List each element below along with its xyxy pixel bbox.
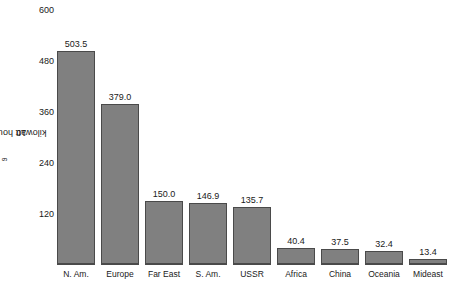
x-axis-tick-label: Africa <box>277 268 315 280</box>
bar <box>409 259 447 265</box>
x-axis-tick-label: S. Am. <box>189 268 227 280</box>
bar-value-label: 146.9 <box>197 191 220 201</box>
x-axis-tick-label: Oceania <box>365 268 403 280</box>
bar-slot: 37.5 <box>321 0 359 265</box>
bar-chart: 109 kilowatt hours 600480360240120 503.5… <box>0 0 456 290</box>
bar-value-label: 379.0 <box>109 92 132 102</box>
bar <box>101 104 139 265</box>
bar-slot: 146.9 <box>189 0 227 265</box>
x-axis-tick-label: China <box>321 268 359 280</box>
bar-value-label: 150.0 <box>153 189 176 199</box>
plot-area: 503.5379.0150.0146.9135.740.437.532.413.… <box>57 0 456 266</box>
bar-slot: 379.0 <box>101 0 139 265</box>
y-axis-tick-labels: 600480360240120 <box>18 0 54 290</box>
y-axis-title-exponent: 9 <box>1 157 8 161</box>
y-axis-title: 109 kilowatt hours <box>0 0 16 265</box>
bar <box>321 249 359 265</box>
bar <box>145 201 183 265</box>
y-axis-tick-label: 600 <box>18 5 54 15</box>
x-axis-tick-label: USSR <box>233 268 271 280</box>
x-axis-tick-labels: N. Am.EuropeFar EastS. Am.USSRAfricaChin… <box>57 268 456 280</box>
bar <box>57 51 95 265</box>
y-axis-tick-label: 480 <box>18 56 54 66</box>
bar-slot: 40.4 <box>277 0 315 265</box>
bar <box>189 203 227 265</box>
x-axis-tick-label: N. Am. <box>57 268 95 280</box>
bar-slot: 32.4 <box>365 0 403 265</box>
bar-value-label: 40.4 <box>287 236 305 246</box>
bar-value-label: 503.5 <box>65 39 88 49</box>
bar-value-label: 37.5 <box>331 237 349 247</box>
bar-value-label: 32.4 <box>375 239 393 249</box>
bar <box>365 251 403 265</box>
bar-slot: 13.4 <box>409 0 447 265</box>
y-axis-tick-label: 120 <box>18 209 54 219</box>
bar-slot: 503.5 <box>57 0 95 265</box>
x-axis-tick-label: Europe <box>101 268 139 280</box>
bar <box>233 207 271 265</box>
y-axis-tick-label: 360 <box>18 107 54 117</box>
x-axis-tick-label: Mideast <box>409 268 447 280</box>
bar-value-label: 13.4 <box>419 247 437 257</box>
bar-value-label: 135.7 <box>241 195 264 205</box>
bar-slot: 150.0 <box>145 0 183 265</box>
x-axis-tick-label: Far East <box>145 268 183 280</box>
bar <box>277 248 315 265</box>
y-axis-tick-label: 240 <box>18 158 54 168</box>
bar-series: 503.5379.0150.0146.9135.740.437.532.413.… <box>57 0 454 265</box>
bar-slot: 135.7 <box>233 0 271 265</box>
